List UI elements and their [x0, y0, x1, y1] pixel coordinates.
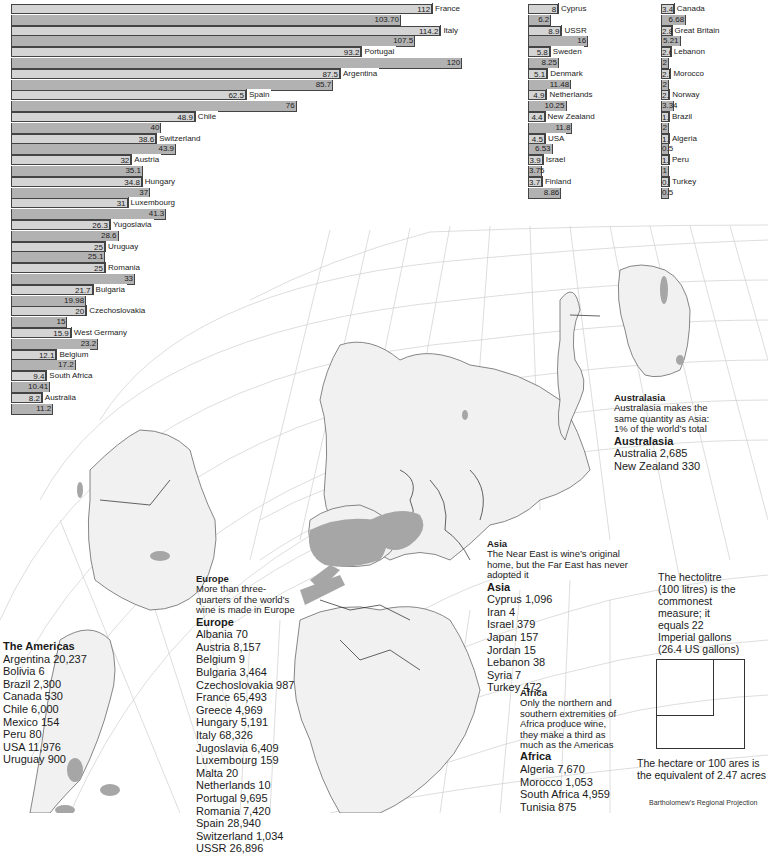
bar-upper: 26.3 [11, 220, 110, 230]
bar-lower: 6.2 [528, 15, 551, 26]
bar-upper: 9.4 [11, 371, 46, 381]
country-label: Luxembourg [128, 197, 177, 208]
europe-item: Czechoslovakia 987 [196, 679, 295, 692]
europe-item: Malta 20 [196, 767, 295, 780]
country-label: Denmark [547, 68, 584, 79]
country-label: Uruguay [105, 241, 140, 252]
europe-item: France 65,493 [196, 691, 295, 704]
bar-upper: 15.9 [11, 328, 71, 338]
europe-item: Romania 7,420 [196, 805, 295, 818]
bar-upper: 87.5 [11, 69, 340, 79]
asia-item: Israel 379 [487, 618, 628, 631]
bar-lower: 0.5 [661, 144, 669, 155]
europe-item: Belgium 9 [196, 653, 295, 666]
africa-item: Morocco 1,053 [520, 776, 616, 789]
country-label: Turkey [669, 176, 698, 187]
country-label: Chile [195, 111, 218, 122]
africa-title: Africa [520, 750, 616, 763]
bar-lower: 40 [11, 123, 161, 134]
hectolitre-line: (26.4 US gallons) [658, 643, 739, 655]
asia-item: Cyprus 1,096 [487, 593, 628, 606]
bar-upper: 3.7 [528, 177, 542, 187]
europe-legend: Europe More than three- quarters of the … [196, 574, 295, 855]
hectolitre-note: The hectolitre (100 litres) is the commo… [658, 571, 739, 655]
hectolitre-line: Imperial gallons [658, 631, 739, 643]
europe-item: Bulgaria 3,464 [196, 666, 295, 679]
country-label: West Germany [71, 327, 129, 338]
europe-item: USSR 26,896 [196, 842, 295, 855]
europe-item: Luxembourg 159 [196, 754, 295, 767]
bar-upper: 25 [11, 263, 105, 273]
hectolitre-line: commonest [658, 595, 739, 607]
bar-lower: 107.5 [11, 36, 415, 47]
country-label: Brazil [669, 111, 694, 122]
bar-upper: 2.5 [661, 69, 670, 79]
country-label: Peru [669, 154, 691, 165]
bar-upper: 5.1 [528, 69, 547, 79]
americas-legend: The Americas Argentina 20,237 Bolivia 6 … [3, 640, 87, 766]
bar-upper: 93.2 [11, 47, 361, 57]
country-label: New Zealand [545, 111, 597, 122]
americas-item: USA 11,976 [3, 741, 87, 754]
country-label: Great Britain [672, 25, 722, 36]
country-label: Israel [543, 154, 568, 165]
bar-upper: 25 [11, 242, 105, 252]
country-label: Hungary [142, 176, 177, 187]
country-label: Algeria [669, 133, 699, 144]
asia-note-3: adopted it [487, 570, 628, 580]
bar-lower: 1 [661, 166, 669, 177]
bar-lower: 25.1 [11, 252, 105, 263]
country-label: Morocco [670, 68, 706, 79]
bar-lower: 2 [661, 58, 669, 69]
bar-upper: 48.9 [11, 112, 195, 122]
bar-upper: 3.9 [528, 155, 543, 165]
asia-item: Syria 7 [487, 669, 628, 682]
bar-lower: 85.7 [11, 80, 333, 91]
country-label: USA [545, 133, 566, 144]
bar-upper: 2.6 [661, 47, 671, 57]
country-label: Czechoslovakia [86, 305, 147, 316]
bar-lower: 28.6 [11, 231, 119, 242]
americas-item: Peru 80 [3, 728, 87, 741]
bar-upper: 4.4 [528, 112, 545, 122]
bar-upper: 4.9 [528, 90, 546, 100]
asia-title: Asia [487, 581, 628, 594]
acre-square [656, 659, 714, 716]
europe-item: Portugal 9,695 [196, 792, 295, 805]
europe-item: Albania 70 [196, 628, 295, 641]
africa-item: Algeria 7,670 [520, 763, 616, 776]
bar-upper: 8 [528, 4, 558, 14]
map-credit: Bartholomew’s Regional Projection [649, 799, 757, 806]
country-label: Portugal [361, 46, 396, 57]
asia-item: Lebanon 38 [487, 656, 628, 669]
hectare-line: the equivalent of 2.47 acres [637, 769, 766, 781]
bar-upper: 12.1 [11, 350, 56, 360]
country-label: Yugoslavia [110, 219, 154, 230]
americas-item: Uruguay 900 [3, 753, 87, 766]
country-label: Canada [674, 3, 707, 14]
americas-item: Canada 530 [3, 690, 87, 703]
bar-upper: 32 [11, 155, 131, 165]
bar-upper: 0.9 [661, 177, 669, 187]
europe-item: Greece 4,969 [196, 704, 295, 717]
europe-title: Europe [196, 616, 295, 629]
africa-note-5: much as the Americas [520, 740, 616, 750]
country-label: Austria [131, 154, 161, 165]
bar-upper: 34.8 [11, 177, 142, 187]
bar-lower: 15 [11, 317, 67, 328]
country-label: France [432, 3, 462, 14]
country-label: South Africa [46, 370, 94, 381]
bar-upper: 1.7 [661, 112, 669, 122]
europe-note-3: wine is made in Europe [196, 605, 295, 615]
hectare-line: The hectare or 100 ares is [637, 757, 766, 769]
australasia-title: Australasia [614, 435, 709, 448]
americas-item: Bolivia 6 [3, 665, 87, 678]
country-label: Bulgaria [93, 284, 127, 295]
africa-legend: Africa Only the northern and southern ex… [520, 688, 616, 813]
bar-upper: 8.9 [528, 26, 561, 36]
bar-upper: 8.2 [11, 393, 42, 403]
asia-item: Japan 157 [487, 631, 628, 644]
bar-lower: 3.75 [528, 166, 542, 177]
europe-item: Austria 8,157 [196, 641, 295, 654]
bar-upper: 31 [11, 198, 128, 208]
